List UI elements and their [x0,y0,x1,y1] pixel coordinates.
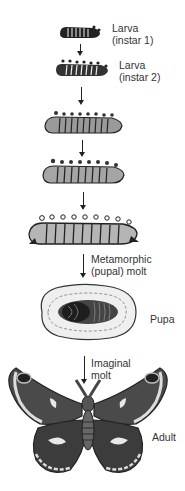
arrow-down-icon [80,44,81,52]
arrow-down-icon [83,254,84,274]
metamorphosis-diagram: Larva (instar 1) Larva (instar 2) [0,0,185,491]
label-larva-instar-1: Larva (instar 1) [112,22,153,46]
larva-instar-2-illustration [53,58,111,78]
arrow-down-icon [82,140,83,153]
arrow-down-icon [81,87,82,101]
label-pupa: Pupa [150,313,175,325]
adult-moth-illustration [4,364,172,484]
label-larva-instar-2: Larva (instar 2) [119,59,160,83]
larva-instar-1-illustration [58,24,102,40]
larva-instar-5-illustration [25,210,143,248]
larva-instar-3-illustration [42,108,126,136]
label-metamorphic-molt: Metamorphic (pupal) molt [91,253,152,277]
arrow-down-icon [83,192,84,206]
larva-instar-4-illustration [40,155,128,187]
pupa-cocoon-illustration [36,282,140,342]
label-adult: Adult [152,431,176,443]
